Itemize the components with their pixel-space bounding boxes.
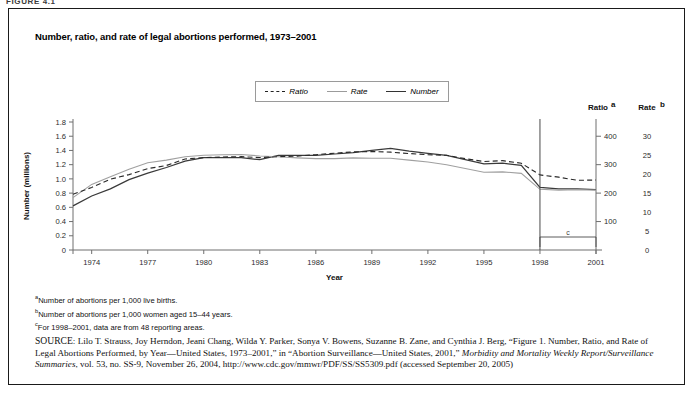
ratio-axis-ticklabel: 200 <box>604 189 617 198</box>
left-axis-ticklabel: 0 <box>62 246 66 255</box>
left-axis-ticklabel: 1.0 <box>55 175 66 184</box>
x-axis-ticklabel: 1998 <box>532 258 549 267</box>
x-axis-ticklabel: 2001 <box>588 258 605 267</box>
left-axis-ticklabel: 1.2 <box>55 160 66 169</box>
series-group <box>73 148 596 206</box>
x-axis-ticklabel: 1974 <box>83 258 100 267</box>
ratio-axis-ticklabel: 100 <box>604 217 617 226</box>
left-axis-ticklabel: 0.2 <box>55 231 66 240</box>
rate-axis-ticklabel: 30 <box>643 132 651 141</box>
x-axis-title: Year <box>326 273 343 282</box>
left-axis-ticklabel: 0.6 <box>55 203 66 212</box>
axes-group: 1.81.61.41.21.00.80.60.40.20197419771980… <box>55 118 651 267</box>
x-axis-ticklabel: 1995 <box>475 258 492 267</box>
rate-axis-ticklabel: 10 <box>643 208 651 217</box>
rate-axis-title-sup: b <box>660 100 665 109</box>
left-axis-ticklabel: 1.4 <box>55 146 66 155</box>
ratio-axis-title: Ratio <box>588 103 608 112</box>
x-axis-ticklabel: 1983 <box>251 258 268 267</box>
axis-labels-group: Number (millions)YearRatioaRateb <box>22 100 665 282</box>
reporting-areas-bracket <box>540 237 596 247</box>
x-axis-ticklabel: 1986 <box>307 258 324 267</box>
left-axis-ticklabel: 0.4 <box>55 217 66 226</box>
rate-axis-ticklabel: 5 <box>645 227 649 236</box>
left-axis-ticklabel: 1.8 <box>55 118 66 127</box>
rate-axis-ticklabel: 0 <box>645 246 649 255</box>
source-prefix: SOURCE <box>35 335 73 346</box>
ratio-axis-ticklabel: 300 <box>604 160 617 169</box>
footnote-b: bNumber of abortions per 1,000 women age… <box>35 306 455 320</box>
x-axis-ticklabel: 1977 <box>139 258 156 267</box>
left-axis-title: Number (millions) <box>22 152 31 220</box>
figure-panel: Number, ratio, and rate of legal abortio… <box>8 8 685 385</box>
source-text-2: , vol. 53, no. SS-9, November 26, 2004, … <box>75 359 513 369</box>
footnote-a: aNumber of abortions per 1,000 live birt… <box>35 292 455 306</box>
series-line-number <box>73 148 596 206</box>
footnote-c-text: For 1998–2001, data are from 48 reportin… <box>38 323 205 332</box>
footnote-b-text: Number of abortions per 1,000 women aged… <box>38 309 233 318</box>
figure-label: FIGURE 4.1 <box>6 0 56 6</box>
footnotes: aNumber of abortions per 1,000 live birt… <box>35 292 455 333</box>
footnote-c: cFor 1998–2001, data are from 48 reporti… <box>35 319 455 333</box>
rate-axis-ticklabel: 20 <box>643 170 651 179</box>
bracket-label: c <box>566 229 570 236</box>
footnote-a-text: Number of abortions per 1,000 live birth… <box>38 296 177 305</box>
x-axis-ticklabel: 1980 <box>195 258 212 267</box>
rate-axis-ticklabel: 15 <box>643 189 651 198</box>
series-line-rate <box>73 154 596 197</box>
x-axis-ticklabel: 1989 <box>363 258 380 267</box>
left-axis-ticklabel: 0.8 <box>55 189 66 198</box>
ratio-axis-title-sup: a <box>611 100 616 109</box>
source-note: SOURCE: Lilo T. Strauss, Joy Herndon, Je… <box>35 335 663 371</box>
annotations-group: c <box>540 119 596 250</box>
x-axis-ticklabel: 1992 <box>419 258 436 267</box>
left-axis-ticklabel: 1.6 <box>55 132 66 141</box>
rate-axis-ticklabel: 25 <box>643 151 651 160</box>
ratio-axis-ticklabel: 400 <box>604 132 617 141</box>
rate-axis-title: Rate <box>638 103 656 112</box>
